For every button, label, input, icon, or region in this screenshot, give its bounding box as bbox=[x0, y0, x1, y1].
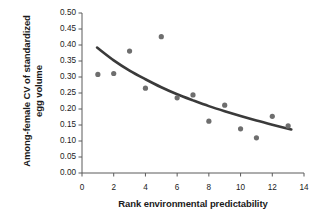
y-axis-title: Among-female CV of standardized egg volu… bbox=[21, 0, 45, 186]
y-axis-title-line1: Among-female CV of standardized bbox=[21, 15, 32, 167]
y-tick-label: 0.50 bbox=[52, 9, 76, 17]
y-axis-title-line2: egg volume bbox=[33, 65, 44, 117]
data-point-marker bbox=[95, 72, 100, 77]
data-point-marker bbox=[286, 123, 291, 128]
x-tick-label: 14 bbox=[299, 183, 308, 192]
x-tick-label: 6 bbox=[175, 183, 180, 192]
data-point-marker bbox=[175, 95, 180, 100]
x-tick-label: 2 bbox=[111, 183, 116, 192]
data-point-marker bbox=[143, 86, 148, 91]
data-point-marker bbox=[127, 48, 132, 53]
y-tick-label: 0.10 bbox=[52, 137, 76, 145]
y-tick-label: 0.20 bbox=[52, 105, 76, 113]
chart-figure: Among-female CV of standardized egg volu… bbox=[0, 0, 334, 220]
data-points bbox=[95, 34, 290, 140]
y-tick-label: 0.40 bbox=[52, 41, 76, 49]
x-tick-label: 12 bbox=[268, 183, 277, 192]
data-point-marker bbox=[111, 71, 116, 76]
y-tick-label: 0.25 bbox=[52, 89, 76, 97]
data-point-marker bbox=[270, 114, 275, 119]
y-tick-label: 0.05 bbox=[52, 153, 76, 161]
x-tick-label: 4 bbox=[143, 183, 148, 192]
data-point-marker bbox=[206, 119, 211, 124]
data-point-marker bbox=[190, 92, 195, 97]
data-point-marker bbox=[222, 103, 227, 108]
fit-curve bbox=[97, 48, 291, 130]
y-tick-label: 0.30 bbox=[52, 73, 76, 81]
x-tick-label: 10 bbox=[236, 183, 245, 192]
x-axis-title: Rank environmental predictability bbox=[82, 198, 304, 209]
y-tick-label: 0.15 bbox=[52, 121, 76, 129]
y-tick-label: 0.45 bbox=[52, 25, 76, 33]
data-point-marker bbox=[254, 135, 259, 140]
y-tick-label: 0.35 bbox=[52, 57, 76, 65]
x-tick-label: 8 bbox=[207, 183, 212, 192]
data-point-marker bbox=[238, 126, 243, 131]
x-tick-label: 0 bbox=[80, 183, 85, 192]
data-point-marker bbox=[159, 34, 164, 39]
